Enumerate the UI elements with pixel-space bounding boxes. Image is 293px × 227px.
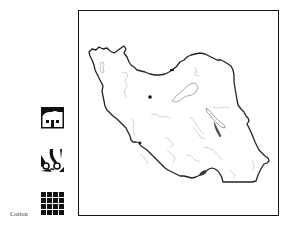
caspian-feature	[170, 69, 174, 71]
iran-map	[0, 0, 293, 227]
gulf-feature	[139, 142, 142, 145]
country-outline	[89, 46, 269, 182]
city-marker	[148, 95, 152, 99]
